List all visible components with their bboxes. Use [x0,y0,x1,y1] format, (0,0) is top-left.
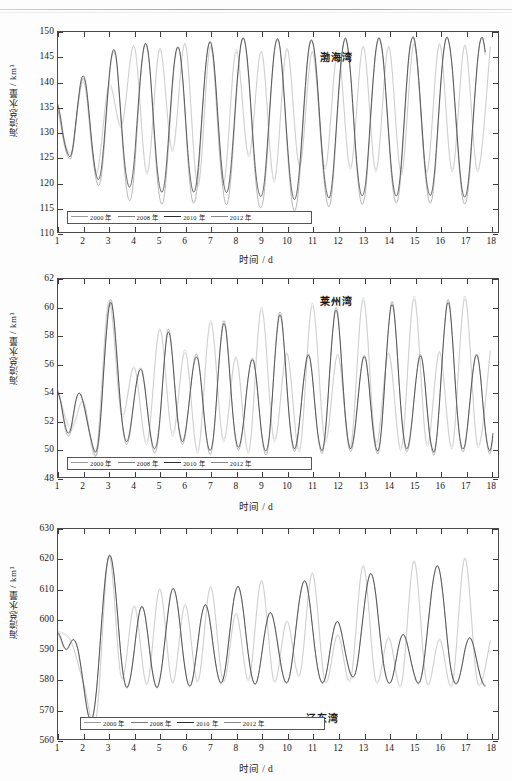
x-tick-mark [390,227,391,232]
x-axis-title-liaodong: 时间 / d [0,761,512,775]
legend-entry-2008: 2008 年 [118,459,159,468]
legend-line-icon-2010 [164,216,181,217]
y-tick-label: 560 [39,735,54,745]
x-tick-mark [467,227,468,232]
x-tick-mark [288,734,289,739]
legend-entry-2012: 2012 年 [211,213,252,222]
plot-area-liaodong: 辽东湾 2000 年 2008 年 2010 年 2012 年 [57,528,499,740]
x-tick-mark-top [365,529,366,534]
legend-label-2000: 2000 年 [103,719,125,728]
y-tick-mark-right [493,234,498,235]
x-tick-mark-top [237,529,238,534]
legend-line-icon-2008 [118,462,135,463]
y-tick-mark-right [493,479,498,480]
y-tick-label: 62 [44,273,54,283]
y-tick-mark-right [493,133,498,134]
x-tick-mark [390,734,391,739]
y-tick-mark-right [493,279,498,280]
x-tick-label: 3 [106,236,111,246]
subplot-bohai: 海湾总水量 / km³ 渤海湾 2000 年 2008 年 2010 年 201… [0,18,512,268]
x-tick-label: 18 [487,481,497,491]
x-tick-mark-top [313,529,314,534]
x-tick-mark [58,734,59,739]
y-tick-mark [58,711,63,712]
y-tick-mark-right [493,450,498,451]
x-tick-mark-top [339,32,340,37]
x-tick-mark [441,734,442,739]
x-tick-mark [160,734,161,739]
x-tick-mark [262,734,263,739]
x-tick-label: 2 [80,481,85,491]
y-tick-mark [58,741,63,742]
y-tick-label: 125 [39,152,54,162]
x-tick-mark [365,734,366,739]
x-tick-label: 2 [80,743,85,753]
x-tick-mark-top [492,279,493,284]
legend-line-icon-2000 [71,462,88,463]
x-tick-mark-top [313,279,314,284]
legend-entry-2012: 2012 年 [224,719,265,728]
x-tick-label: 8 [233,743,238,753]
subplot-liaodong: 海湾总水量 / km³ 辽东湾 2000 年 2008 年 2010 年 201… [0,518,512,781]
x-tick-mark [339,734,340,739]
y-axis-title-laizhou: 海湾总水量 / km³ [6,312,19,385]
series-line-2008年 [58,299,490,457]
y-tick-mark [58,108,63,109]
y-tick-label: 130 [39,127,54,137]
x-tick-mark [237,734,238,739]
panel-title-laizhou: 莱州湾 [320,293,353,308]
legend-entry-2000: 2000 年 [71,213,112,222]
x-tick-label: 14 [384,236,394,246]
y-tick-label: 115 [40,203,54,213]
y-tick-mark [58,57,63,58]
x-tick-label: 1 [55,481,60,491]
x-tick-label: 11 [308,743,317,753]
plot-area-laizhou: 莱州湾 2000 年 2008 年 2010 年 2012 年 [57,278,499,478]
series-line-2012年 [58,43,490,185]
y-tick-label: 630 [39,523,54,533]
x-tick-mark-top [390,279,391,284]
x-tick-mark-top [288,32,289,37]
figure-page: 海湾总水量 / km³ 渤海湾 2000 年 2008 年 2010 年 201… [0,0,512,781]
x-tick-mark-top [211,32,212,37]
x-tick-mark-top [160,279,161,284]
x-tick-mark [492,472,493,477]
x-tick-label: 15 [410,481,420,491]
x-tick-mark-top [262,279,263,284]
y-tick-label: 570 [39,705,54,715]
x-tick-mark [237,472,238,477]
legend-line-icon-2012 [211,216,228,217]
x-tick-mark-top [492,32,493,37]
x-tick-label: 18 [487,236,497,246]
legend-entry-2008: 2008 年 [118,213,159,222]
x-tick-label: 16 [435,236,445,246]
y-tick-mark [58,365,63,366]
legend-label-2008: 2008 年 [150,719,172,728]
x-tick-label: 4 [131,743,136,753]
x-tick-mark [492,227,493,232]
x-tick-label: 11 [308,236,317,246]
y-tick-label: 110 [40,228,54,238]
x-tick-mark-top [467,529,468,534]
y-tick-label: 140 [39,77,54,87]
x-tick-mark-top [441,529,442,534]
series-line-2000年 [58,556,485,721]
x-tick-mark-top [186,529,187,534]
legend-line-icon-2008 [118,216,135,217]
legend-entry-2010: 2010 年 [164,213,205,222]
x-tick-mark [109,227,110,232]
legend-label-2010: 2010 年 [196,719,218,728]
x-tick-mark-top [109,279,110,284]
legend-line-icon-2000 [71,216,88,217]
x-tick-mark [211,227,212,232]
x-tick-label: 5 [157,481,162,491]
x-tick-label: 2 [80,236,85,246]
x-tick-mark [186,472,187,477]
x-tick-mark-top [441,32,442,37]
legend-label-2012: 2012 年 [243,719,265,728]
curve-layer-laizhou [58,279,498,477]
y-axis-title-liaodong: 海湾总水量 / km³ [6,566,19,639]
x-tick-mark-top [416,32,417,37]
x-tick-mark-top [135,279,136,284]
x-tick-mark-top [416,279,417,284]
